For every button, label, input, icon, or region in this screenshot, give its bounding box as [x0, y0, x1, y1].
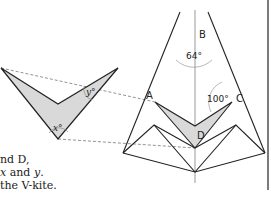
- caption-line-3: the V-kite.: [0, 179, 57, 192]
- caption-period: .: [40, 166, 44, 179]
- label-x-angle: x°: [53, 123, 63, 133]
- line-through-B-left: [123, 12, 180, 153]
- angle-C-value: 100°: [207, 94, 229, 104]
- v-kite-ABCD: [155, 102, 232, 148]
- caption-text-and: and: [6, 166, 34, 179]
- caption-line-2: x and y.: [0, 166, 44, 179]
- label-y-angle: y°: [85, 87, 96, 97]
- angle-B-value: 64°: [186, 51, 202, 61]
- label-C: C: [236, 93, 243, 104]
- lower-kite-outer: [123, 153, 265, 172]
- label-D: D: [197, 130, 205, 141]
- caption-line-1: nd D,: [0, 153, 30, 166]
- label-A: A: [146, 90, 153, 101]
- line-through-B-right: [208, 12, 265, 153]
- label-B: B: [199, 29, 206, 40]
- angle-arc-B: [176, 60, 212, 67]
